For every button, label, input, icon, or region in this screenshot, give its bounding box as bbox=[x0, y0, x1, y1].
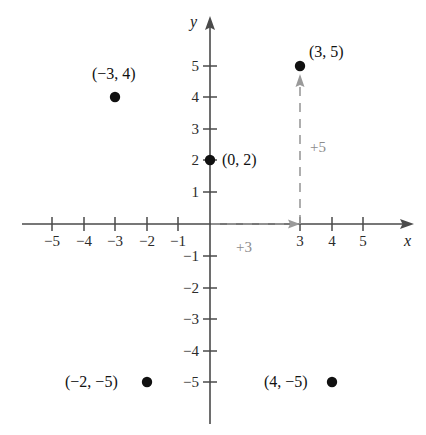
point-label-3-5: (3, 5) bbox=[309, 44, 344, 60]
y-tick-label--2: −2 bbox=[183, 281, 199, 296]
point-label-0-2: (0, 2) bbox=[222, 152, 257, 168]
y-tick-label-3: 3 bbox=[192, 122, 200, 137]
point-marker bbox=[205, 155, 215, 165]
x-tick-label--5: −5 bbox=[44, 234, 60, 249]
x-tick-label--2: −2 bbox=[139, 234, 155, 249]
x-axis-name: x bbox=[404, 233, 411, 249]
annotation-label-run: +3 bbox=[236, 240, 252, 255]
x-tick-label--4: −4 bbox=[76, 234, 92, 249]
y-tick-label--1: −1 bbox=[183, 249, 199, 264]
y-tick-label-2: 2 bbox=[192, 153, 200, 168]
y-axis-name: y bbox=[190, 14, 197, 30]
y-axis bbox=[205, 16, 215, 424]
y-tick-label-4: 4 bbox=[192, 90, 200, 105]
y-tick-label--4: −4 bbox=[183, 344, 199, 359]
point-label--2--5: (−2, −5) bbox=[65, 374, 118, 390]
point-label--3-4: (−3, 4) bbox=[92, 66, 136, 82]
annotation-label-rise: +5 bbox=[310, 140, 326, 155]
y-tick-label--3: −3 bbox=[183, 312, 199, 327]
rise-arrow-annotation bbox=[296, 74, 305, 224]
x-tick-label-4: 4 bbox=[328, 234, 336, 249]
y-tick-label-5: 5 bbox=[192, 59, 200, 74]
y-tick-label-1: 1 bbox=[192, 185, 200, 200]
coordinate-plane-figure: −5 −4 −3 −2 −1 3 4 5 5 4 3 2 1 −1 −2 −3 … bbox=[0, 0, 426, 435]
point-marker bbox=[327, 377, 337, 387]
x-tick-label--3: −3 bbox=[107, 234, 123, 249]
x-tick-label-5: 5 bbox=[359, 234, 367, 249]
point-marker bbox=[295, 61, 305, 71]
y-tick-label--5: −5 bbox=[183, 375, 199, 390]
point-label-4--5: (4, −5) bbox=[264, 374, 308, 390]
coordinate-plane-svg bbox=[0, 0, 426, 435]
point-marker bbox=[110, 92, 120, 102]
point-marker bbox=[142, 377, 152, 387]
x-tick-label-3: 3 bbox=[296, 234, 304, 249]
